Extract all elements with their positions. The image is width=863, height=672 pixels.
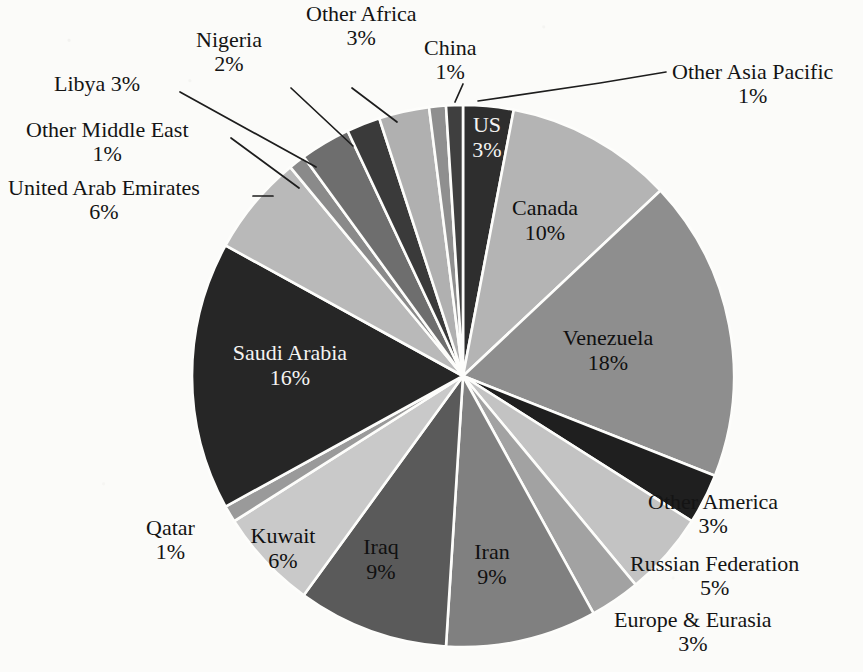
pie-label-percent: 16%: [233, 366, 347, 391]
pie-label-name: Kuwait: [251, 523, 316, 548]
pie-label-percent: 9%: [474, 565, 509, 590]
pie-label-name: Other Africa: [306, 1, 417, 26]
pie-label-name: Other Asia Pacific: [672, 59, 833, 84]
pie-label-percent: 9%: [363, 560, 398, 585]
pie-label-name: Europe & Eurasia: [614, 607, 772, 632]
leader-line-other-middle-east: [231, 138, 299, 188]
pie-label-percent: 3%: [472, 138, 501, 163]
pie-label-other-america: Other America3%: [648, 490, 778, 538]
pie-label-libya: Libya 3%: [54, 72, 140, 96]
pie-label-percent: 2%: [196, 52, 262, 76]
pie-label-russian-federation: Russian Federation5%: [630, 552, 799, 600]
pie-label-name: Iran: [474, 539, 509, 564]
pie-label-canada: Canada10%: [512, 196, 578, 245]
pie-label-nigeria: Nigeria2%: [196, 28, 262, 76]
pie-label-name: Saudi Arabia: [233, 340, 347, 365]
pie-label-united-arab-emirates: United Arab Emirates6%: [8, 176, 200, 224]
pie-label-saudi-arabia: Saudi Arabia16%: [233, 341, 347, 390]
pie-label-percent: 1%: [672, 84, 833, 108]
pie-label-percent: 6%: [8, 200, 200, 224]
pie-label-name: Libya 3%: [54, 71, 140, 96]
pie-label-name: Venezuela: [563, 325, 653, 350]
pie-label-kuwait: Kuwait6%: [251, 524, 316, 573]
pie-label-name: Russian Federation: [630, 551, 799, 576]
pie-label-name: United Arab Emirates: [8, 175, 200, 200]
leader-line-nigeria: [291, 88, 353, 146]
pie-label-name: Iraq: [363, 534, 398, 559]
pie-label-name: Other Middle East: [26, 117, 189, 142]
pie-label-iraq: Iraq9%: [363, 535, 398, 584]
pie-label-other-middle-east: Other Middle East1%: [26, 118, 189, 166]
leader-line-libya: [180, 92, 316, 167]
pie-label-name: Other America: [648, 489, 778, 514]
pie-label-qatar: Qatar1%: [146, 516, 195, 564]
pie-label-name: Nigeria: [196, 27, 262, 52]
pie-label-china: China1%: [424, 36, 477, 84]
pie-label-percent: 1%: [424, 60, 477, 84]
pie-label-percent: 3%: [648, 514, 778, 538]
pie-label-other-asia-pacific: Other Asia Pacific1%: [672, 60, 833, 108]
pie-label-percent: 1%: [26, 142, 189, 166]
pie-label-name: Qatar: [146, 515, 195, 540]
pie-label-percent: 3%: [614, 632, 772, 656]
leader-line-china: [455, 84, 463, 102]
pie-label-percent: 10%: [512, 221, 578, 246]
pie-label-name: US: [473, 112, 501, 137]
pie-label-name: China: [424, 35, 477, 60]
pie-label-europe-eurasia: Europe & Eurasia3%: [614, 608, 772, 656]
pie-label-other-africa: Other Africa3%: [306, 2, 417, 50]
pie-label-iran: Iran9%: [474, 540, 509, 589]
pie-label-percent: 18%: [563, 351, 653, 376]
pie-label-percent: 6%: [251, 549, 316, 574]
pie-label-percent: 3%: [306, 26, 417, 50]
pie-label-percent: 5%: [630, 576, 799, 600]
pie-label-name: Canada: [512, 195, 578, 220]
pie-chart: Other Asia Pacific1%China1%Other Africa3…: [0, 0, 863, 672]
leader-line-other-africa: [352, 88, 397, 122]
leader-line-other-asia-pacific: [478, 72, 666, 101]
pie-label-venezuela: Venezuela18%: [563, 326, 653, 375]
pie-label-us: US3%: [472, 113, 501, 162]
pie-label-percent: 1%: [146, 540, 195, 564]
